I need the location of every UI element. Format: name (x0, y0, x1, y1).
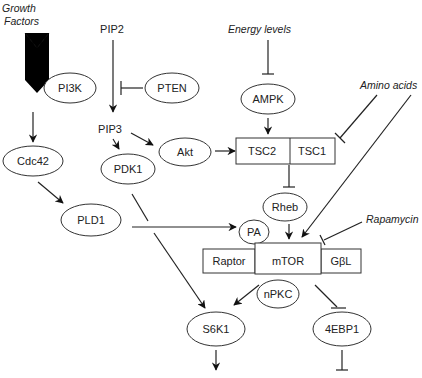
node-npkc: nPKC (257, 280, 299, 308)
node-ampk: AMPK (241, 84, 295, 114)
node-rheb: Rheb (263, 193, 307, 221)
node-akt: Akt (159, 138, 211, 166)
node-tsc1-label: TSC1 (298, 145, 326, 157)
node-pa-label: PA (247, 226, 262, 238)
edge-pdk1-s6k1-part1 (132, 194, 148, 221)
input-rapamycin: Rapamycin (366, 213, 419, 225)
edge-cdc42-pld1 (38, 182, 63, 203)
node-4ebp1-label: 4EBP1 (325, 323, 359, 335)
edge-rapamycin-mtor (324, 222, 362, 240)
edge-mtor-s6k1 (234, 285, 259, 305)
edge-pdk1-s6k1-part2 (154, 233, 205, 308)
node-pip2: PIP2 (100, 23, 124, 35)
node-pld1-label: PLD1 (77, 214, 105, 226)
node-cdc42: Cdc42 (3, 146, 63, 176)
edge-amino-tsc1 (340, 95, 377, 138)
node-ampk-label: AMPK (252, 93, 284, 105)
growth-factors-label-line2: Factors (4, 15, 40, 27)
node-rheb-label: Rheb (272, 201, 298, 213)
node-s6k1: S6K1 (187, 312, 245, 346)
node-npkc-label: nPKC (264, 288, 293, 300)
node-pi3k-label: PI3K (58, 82, 83, 94)
node-pdk1: PDK1 (101, 154, 155, 184)
node-tsc-complex: TSC2 TSC1 (236, 138, 335, 164)
input-energy-levels: Energy levels (228, 23, 292, 35)
node-pten-label: PTEN (157, 82, 186, 94)
node-pten: PTEN (145, 73, 199, 103)
node-pld1: PLD1 (61, 204, 121, 236)
edge-mtor-4ebp1 (315, 285, 337, 307)
node-akt-label: Akt (177, 146, 193, 158)
node-cdc42-label: Cdc42 (17, 155, 49, 167)
node-gbl-label: GβL (330, 255, 351, 267)
growth-factors-label-line1: Growth (2, 2, 36, 14)
node-4ebp1: 4EBP1 (313, 312, 371, 346)
mtor-pathway-diagram: Growth Factors PI3K PIP2 PTEN PIP3 Akt P… (0, 0, 422, 378)
node-raptor-label: Raptor (212, 255, 245, 267)
node-mtorc1: Raptor GβL mTOR (203, 243, 361, 274)
node-pa: PA (239, 220, 269, 244)
node-pdk1-label: PDK1 (114, 163, 143, 175)
node-tsc2-label: TSC2 (248, 145, 276, 157)
node-pi3k: PI3K (44, 73, 96, 103)
edge-pip3-pdk1 (113, 139, 119, 149)
edge-pip3-akt (131, 133, 153, 145)
node-pip3: PIP3 (98, 123, 122, 135)
node-s6k1-label: S6K1 (203, 323, 230, 335)
input-amino-acids: Amino acids (359, 79, 418, 91)
node-mtor-label: mTOR (272, 255, 304, 267)
